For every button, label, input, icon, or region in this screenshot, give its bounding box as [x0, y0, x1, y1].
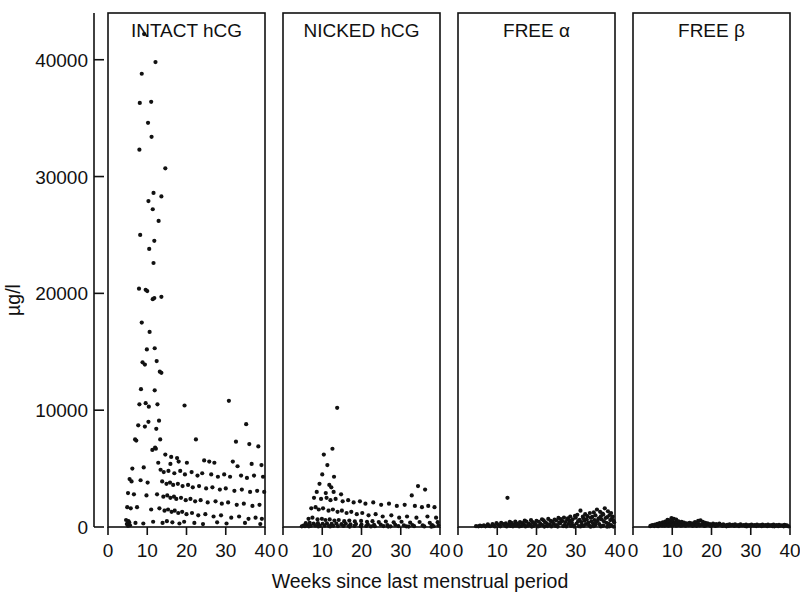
data-point: [776, 524, 780, 528]
data-point: [322, 452, 326, 456]
data-point: [183, 472, 187, 476]
data-point: [332, 475, 336, 479]
data-point: [195, 474, 199, 478]
scatter-figure: 010000200003000040000 INTACT hCG01020304…: [0, 0, 800, 598]
data-point: [258, 522, 262, 526]
data-point: [144, 493, 148, 497]
data-point: [212, 461, 216, 465]
data-point: [765, 524, 769, 528]
data-point: [134, 438, 138, 442]
data-point: [140, 320, 144, 324]
data-point: [260, 517, 264, 521]
data-point: [204, 486, 208, 490]
data-point: [396, 524, 400, 528]
data-point: [244, 422, 248, 426]
data-point: [242, 502, 246, 506]
x-axis-title: Weeks since last menstrual period: [272, 570, 569, 592]
data-point: [599, 524, 603, 528]
data-point: [126, 491, 130, 495]
data-point: [207, 459, 211, 463]
data-point: [373, 524, 377, 528]
data-point: [364, 524, 368, 528]
data-point: [397, 516, 401, 520]
data-point: [306, 517, 310, 521]
data-point: [139, 387, 143, 391]
data-point: [227, 399, 231, 403]
data-point: [171, 483, 175, 487]
data-point: [674, 524, 678, 528]
data-point: [315, 490, 319, 494]
data-point: [330, 447, 334, 451]
data-point: [132, 492, 136, 496]
data-point: [245, 476, 249, 480]
x-axis-tick-label: 40: [779, 540, 800, 561]
data-point: [169, 455, 173, 459]
data-point: [197, 484, 201, 488]
data-point: [145, 347, 149, 351]
x-axis-tick-label: 30: [565, 540, 586, 561]
data-point: [358, 499, 362, 503]
data-point: [133, 521, 137, 525]
data-point: [523, 524, 527, 528]
data-point: [709, 524, 713, 528]
data-point: [309, 506, 313, 510]
data-point: [344, 511, 348, 515]
data-point: [488, 524, 492, 528]
data-point: [176, 482, 180, 486]
data-point: [720, 524, 724, 528]
y-axis-title: µg/l: [2, 284, 24, 316]
data-point: [325, 463, 329, 467]
data-point: [219, 513, 223, 517]
data-point: [434, 516, 438, 520]
data-point: [536, 524, 540, 528]
x-axis-tick-label: 40: [604, 540, 625, 561]
data-point: [193, 499, 197, 503]
data-point: [246, 517, 250, 521]
data-point: [211, 514, 215, 518]
data-point: [159, 295, 163, 299]
data-point: [138, 478, 142, 482]
data-point: [199, 498, 203, 502]
data-point: [224, 486, 228, 490]
data-point: [407, 524, 411, 528]
data-point: [229, 516, 233, 520]
data-point: [589, 525, 593, 529]
data-point: [155, 359, 159, 363]
data-point: [386, 524, 390, 528]
data-point: [605, 525, 609, 529]
data-point: [153, 346, 157, 350]
data-point: [303, 524, 307, 528]
data-point: [201, 522, 205, 526]
data-point: [142, 32, 146, 36]
data-point: [153, 388, 157, 392]
data-point: [151, 207, 155, 211]
data-point: [163, 166, 167, 170]
data-point: [346, 498, 350, 502]
data-point: [329, 485, 333, 489]
data-point: [319, 497, 323, 501]
data-point: [381, 524, 385, 528]
data-point: [140, 72, 144, 76]
data-point: [359, 524, 363, 528]
data-point: [235, 464, 239, 468]
figure-background: [0, 0, 800, 598]
data-point: [160, 479, 164, 483]
data-point: [151, 261, 155, 265]
data-point: [713, 524, 717, 528]
data-point: [206, 500, 210, 504]
figure-container: 010000200003000040000 INTACT hCG01020304…: [0, 0, 800, 598]
data-point: [505, 496, 509, 500]
data-point: [370, 519, 374, 523]
data-point: [216, 475, 220, 479]
data-point: [184, 512, 188, 516]
data-point: [307, 524, 311, 528]
data-point: [429, 525, 433, 529]
data-point: [732, 524, 736, 528]
panel-title: INTACT hCG: [131, 20, 242, 41]
data-point: [317, 482, 321, 486]
data-point: [312, 496, 316, 500]
data-point: [146, 420, 150, 424]
data-point: [517, 524, 521, 528]
data-point: [355, 512, 359, 516]
data-point: [387, 502, 391, 506]
